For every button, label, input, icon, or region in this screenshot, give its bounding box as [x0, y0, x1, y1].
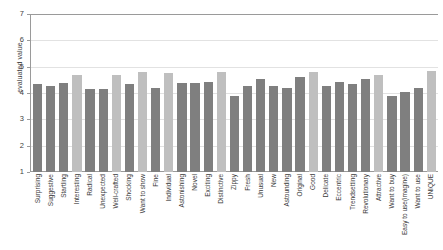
x-axis-label: Exciting: [205, 174, 212, 197]
bar-chart: evaluated value 1234567 SurprisingSugges…: [0, 0, 443, 250]
bar-slot: [70, 14, 83, 172]
bar-slot: [412, 14, 425, 172]
bar: [33, 84, 42, 172]
bar-slot: [57, 14, 70, 172]
bar: [151, 88, 160, 172]
bar: [335, 82, 344, 172]
x-axis-label: Novel: [192, 174, 199, 191]
bar-slot: [215, 14, 228, 172]
y-tick-label-6: 6: [0, 36, 24, 44]
bar-slot: [97, 14, 110, 172]
x-label-slot: Novel: [189, 174, 202, 250]
bar: [204, 82, 213, 172]
bar-slot: [333, 14, 346, 172]
x-label-slot: Suggestive: [44, 174, 57, 250]
bar: [322, 86, 331, 172]
bar: [282, 88, 291, 172]
y-tick-label-7: 7: [0, 10, 24, 18]
bar: [230, 96, 239, 172]
bar-slot: [175, 14, 188, 172]
x-axis-label: Interesting: [74, 174, 81, 204]
x-label-slot: Well-crafted: [110, 174, 123, 250]
x-axis-labels: SurprisingSuggestiveStartlingInteresting…: [31, 174, 438, 250]
bar-slot: [202, 14, 215, 172]
bar-slot: [372, 14, 385, 172]
x-label-slot: Good: [307, 174, 320, 250]
bar-slot: [280, 14, 293, 172]
x-label-slot: Fresh: [241, 174, 254, 250]
x-axis-label: Want to buy: [389, 174, 396, 208]
x-label-slot: Want to buy: [385, 174, 398, 250]
x-label-slot: Attractive: [372, 174, 385, 250]
bar-slot: [44, 14, 57, 172]
x-axis-label: New: [271, 174, 278, 187]
bar-slot: [31, 14, 44, 172]
y-tick-label-1: 1: [0, 168, 24, 176]
x-axis-label: Radical: [87, 174, 94, 196]
bar-slot: [136, 14, 149, 172]
bar: [72, 75, 81, 172]
x-axis-label: Delicate: [323, 174, 330, 197]
x-label-slot: Surprising: [31, 174, 44, 250]
y-tick-mark-1: [27, 172, 30, 173]
bar: [256, 79, 265, 172]
x-axis-label: Easy to use(imagine): [402, 174, 409, 235]
y-tick-label-4: 4: [0, 89, 24, 97]
x-label-slot: Startling: [57, 174, 70, 250]
bar-slot: [149, 14, 162, 172]
bar-slot: [241, 14, 254, 172]
x-label-slot: Exciting: [202, 174, 215, 250]
bar: [112, 75, 121, 172]
x-label-slot: Fine: [149, 174, 162, 250]
bar-slot: [189, 14, 202, 172]
bar-slot: [346, 14, 359, 172]
x-axis-label: Well-crafted: [113, 174, 120, 209]
x-axis-label: Surprising: [34, 174, 41, 203]
x-axis-label: Unusual: [257, 174, 264, 198]
bar: [59, 83, 68, 172]
x-axis-label: Astounding: [284, 174, 291, 207]
x-label-slot: Astounding: [280, 174, 293, 250]
x-axis-label: Fresh: [244, 174, 251, 191]
x-label-slot: Easy to use(imagine): [399, 174, 412, 250]
x-label-slot: Revolutionary: [359, 174, 372, 250]
x-axis-label: Trendsetting: [349, 174, 356, 210]
x-label-slot: Interesting: [70, 174, 83, 250]
bar: [361, 79, 370, 172]
x-label-slot: Zippy: [228, 174, 241, 250]
bar-slot: [320, 14, 333, 172]
x-label-slot: Individual: [162, 174, 175, 250]
x-label-slot: Distinctive: [215, 174, 228, 250]
bar-slot: [84, 14, 97, 172]
bar: [164, 73, 173, 172]
x-label-slot: Unexpected: [97, 174, 110, 250]
bar-slot: [267, 14, 280, 172]
y-tick-mark-2: [27, 146, 30, 147]
x-axis-label: Want to use: [415, 174, 422, 208]
y-tick-label-5: 5: [0, 63, 24, 71]
x-axis-label: Zippy: [231, 174, 238, 190]
x-axis-label: Unexpected: [100, 174, 107, 209]
bar: [46, 86, 55, 172]
x-label-slot: Original: [294, 174, 307, 250]
y-tick-mark-5: [27, 67, 30, 68]
bar: [177, 83, 186, 172]
bar-slot: [294, 14, 307, 172]
bar: [217, 72, 226, 172]
x-axis-label: Good: [310, 174, 317, 190]
x-label-slot: Shocking: [123, 174, 136, 250]
bar: [414, 88, 423, 172]
x-label-slot: Eccentric: [333, 174, 346, 250]
bar-slot: [123, 14, 136, 172]
bar-slot: [228, 14, 241, 172]
bar-slot: [385, 14, 398, 172]
x-axis-label: Astonishing: [179, 174, 186, 208]
bar-series: [31, 14, 438, 172]
x-axis-label: Want to show: [139, 174, 146, 213]
x-axis-label: Original: [297, 174, 304, 196]
bar: [243, 86, 252, 172]
bar-slot: [110, 14, 123, 172]
bar: [125, 84, 134, 172]
x-axis-label: Distinctive: [218, 174, 225, 204]
y-tick-mark-6: [27, 40, 30, 41]
